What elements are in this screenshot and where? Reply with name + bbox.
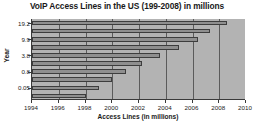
y-axis-ticks: 19.29.93.80.80.05 <box>0 19 30 100</box>
bar-row <box>32 84 245 92</box>
bar <box>32 86 99 91</box>
y-axis-tick-label: 3.8 <box>1 52 30 59</box>
x-axis-tick-mark <box>165 100 166 103</box>
x-axis-tick-mark <box>245 100 246 103</box>
bar <box>32 94 86 99</box>
x-axis-tick-mark <box>31 100 32 103</box>
y-axis-tick-label: 19.2 <box>1 20 30 27</box>
x-axis-tick-mark <box>138 100 139 103</box>
bar <box>32 37 198 42</box>
x-axis-tick-label: 2000 <box>98 104 124 111</box>
x-axis-tick-label: 2004 <box>152 104 178 111</box>
bar <box>32 29 210 34</box>
bar-row <box>32 19 245 27</box>
bar <box>32 77 112 82</box>
y-axis-tick-label: 0.05 <box>1 84 30 91</box>
bar-row <box>32 35 245 43</box>
x-axis-tick-mark <box>58 100 59 103</box>
x-axis-tick-label: 1994 <box>18 104 44 111</box>
y-axis-tick-label: 9.9 <box>1 36 30 43</box>
bar-row <box>32 92 245 100</box>
x-axis-tick-label: 2006 <box>179 104 205 111</box>
plot-area <box>31 19 245 100</box>
x-axis-tick-label: 1998 <box>72 104 98 111</box>
bar <box>32 53 160 58</box>
x-axis-tick-mark <box>192 100 193 103</box>
x-axis-tick-label: 1996 <box>45 104 71 111</box>
x-axis-tick-label: 2010 <box>232 104 254 111</box>
bar <box>32 61 142 66</box>
chart-title: VoIP Access Lines in the US (199-2008) i… <box>0 1 254 12</box>
x-axis-tick-label: 2002 <box>125 104 151 111</box>
x-axis-tick-mark <box>218 100 219 103</box>
chart-container: VoIP Access Lines in the US (199-2008) i… <box>0 0 254 133</box>
bar-row <box>32 51 245 59</box>
bar-row <box>32 76 245 84</box>
x-axis-tick-mark <box>111 100 112 103</box>
bar-row <box>32 68 245 76</box>
bar-row <box>32 43 245 51</box>
x-axis-title: Access Lines (in millions) <box>31 113 245 120</box>
x-axis-ticks: 199419961998200020022004200620082010 <box>31 100 245 112</box>
y-axis-tick-label: 0.8 <box>1 68 30 75</box>
bar-row <box>32 60 245 68</box>
bar-row <box>32 27 245 35</box>
bar <box>32 69 126 74</box>
bar <box>32 21 227 26</box>
x-axis-tick-label: 2008 <box>205 104 231 111</box>
bar <box>32 45 179 50</box>
x-axis-tick-mark <box>85 100 86 103</box>
